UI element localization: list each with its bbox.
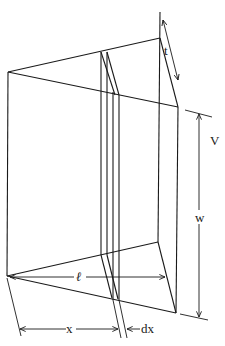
tapered-slab-diagram: t V w ℓ x dx bbox=[0, 0, 225, 346]
label-w: w bbox=[195, 210, 205, 225]
label-l: ℓ bbox=[76, 269, 82, 284]
dimension-w: V w bbox=[180, 110, 220, 320]
dimension-t: t bbox=[163, 20, 178, 80]
slab-element bbox=[101, 52, 127, 338]
dimension-x: x dx bbox=[7, 278, 155, 336]
label-dx: dx bbox=[141, 321, 155, 336]
label-t: t bbox=[164, 43, 168, 58]
label-V: V bbox=[210, 133, 220, 148]
label-x: x bbox=[66, 321, 73, 336]
solid-outline bbox=[7, 12, 178, 313]
